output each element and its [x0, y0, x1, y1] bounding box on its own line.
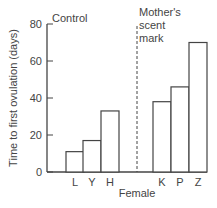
control-label: Control: [52, 12, 87, 24]
scent-label-1: Mother's: [139, 6, 181, 18]
y-tick-label: 0: [36, 166, 42, 178]
y-tick-label: 20: [30, 129, 42, 141]
y-tick-label: 80: [30, 18, 42, 30]
y-tick-label: 40: [30, 92, 42, 104]
x-axis-label: Female: [119, 187, 156, 199]
y-axis-label: Time to first ovulation (days): [7, 29, 19, 167]
bar-P: [171, 87, 189, 172]
x-tick-label: Z: [195, 176, 202, 188]
x-tick-label: K: [158, 176, 166, 188]
x-tick-label: L: [72, 176, 78, 188]
x-tick-label: Y: [88, 176, 96, 188]
bar-chart: 020406080 LYHKPZ Control Mother's scent …: [0, 0, 217, 208]
bar-Z: [189, 43, 207, 173]
bar-H: [101, 111, 119, 172]
bar-K: [153, 102, 171, 172]
bar-L: [66, 152, 84, 172]
y-tick-label: 60: [30, 55, 42, 67]
scent-label-3: mark: [139, 32, 164, 44]
scent-label-2: scent: [139, 19, 165, 31]
x-tick-label: P: [176, 176, 183, 188]
x-tick-label: H: [106, 176, 114, 188]
bar-Y: [83, 141, 101, 172]
